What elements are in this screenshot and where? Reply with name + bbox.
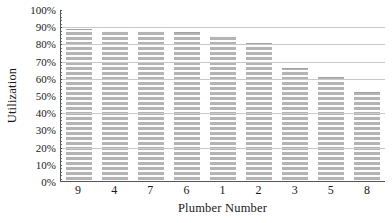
y-axis-minor-tick-mark xyxy=(60,51,62,52)
y-axis-minor-tick-mark xyxy=(60,120,62,121)
bar-slot xyxy=(133,10,169,181)
y-axis-minor-tick-mark xyxy=(60,137,62,138)
bar xyxy=(102,31,128,181)
y-axis-tick-label: 90% xyxy=(36,22,56,33)
y-axis-minor-tick-mark xyxy=(60,58,62,59)
x-axis-tick-labels: 947612358 xyxy=(60,184,385,202)
y-axis-tick-mark xyxy=(60,10,62,11)
plot-inner xyxy=(61,10,385,181)
y-axis-tick-mark xyxy=(60,79,62,80)
x-axis-tick-label: 1 xyxy=(204,184,240,196)
bar xyxy=(138,31,164,181)
y-axis-minor-tick-mark xyxy=(60,175,62,176)
y-axis-minor-tick-mark xyxy=(60,89,62,90)
bar xyxy=(66,29,92,181)
y-axis-tick-mark xyxy=(60,113,62,114)
y-axis-minor-tick-mark xyxy=(60,48,62,49)
y-axis-minor-tick-mark xyxy=(60,103,62,104)
bar-slot xyxy=(349,10,385,181)
y-axis-minor-tick-mark xyxy=(60,38,62,39)
x-axis-tick-label: 4 xyxy=(96,184,132,196)
bar xyxy=(354,92,380,181)
y-axis-tick-mark xyxy=(60,96,62,97)
bar-slot xyxy=(205,10,241,181)
y-axis-minor-tick-mark xyxy=(60,17,62,18)
bar xyxy=(210,36,236,181)
bar-slot xyxy=(97,10,133,181)
y-axis-minor-tick-mark xyxy=(60,86,62,87)
y-axis-minor-tick-mark xyxy=(60,99,62,100)
bar xyxy=(282,68,308,181)
y-axis-minor-tick-mark xyxy=(60,154,62,155)
bar-slot xyxy=(169,10,205,181)
plot-area xyxy=(60,10,385,182)
y-axis-tick-mark xyxy=(60,148,62,149)
y-axis-minor-tick-mark xyxy=(60,82,62,83)
x-axis-title-text: Plumber Number xyxy=(178,201,267,215)
y-axis-tick-label: 40% xyxy=(36,108,56,119)
y-axis-minor-tick-mark xyxy=(60,127,62,128)
bar xyxy=(318,77,344,181)
x-axis-tick-label: 9 xyxy=(60,184,96,196)
y-axis-minor-tick-mark xyxy=(60,110,62,111)
y-axis-tick-label: 80% xyxy=(36,39,56,50)
y-axis-tick-mark xyxy=(60,27,62,28)
y-axis-tick-label: 70% xyxy=(36,56,56,67)
y-axis-minor-tick-mark xyxy=(60,68,62,69)
y-axis-minor-tick-mark xyxy=(60,75,62,76)
y-axis-minor-tick-mark xyxy=(60,161,62,162)
y-axis-tick-label: 30% xyxy=(36,125,56,136)
bar xyxy=(174,32,200,181)
y-axis-minor-tick-mark xyxy=(60,13,62,14)
x-axis-title: Plumber Number xyxy=(60,201,385,216)
y-axis-minor-tick-mark xyxy=(60,106,62,107)
y-axis-minor-tick-mark xyxy=(60,20,62,21)
y-axis-tick-label: 0% xyxy=(41,177,56,188)
y-axis-minor-tick-mark xyxy=(60,55,62,56)
y-axis-tick-label: 20% xyxy=(36,142,56,153)
y-axis-minor-tick-mark xyxy=(60,93,62,94)
bars-layer xyxy=(61,10,385,181)
y-axis-minor-tick-mark xyxy=(60,168,62,169)
x-axis-tick-label: 2 xyxy=(241,184,277,196)
x-axis-tick-label: 8 xyxy=(349,184,385,196)
x-axis-tick-label: 6 xyxy=(168,184,204,196)
bar-slot xyxy=(61,10,97,181)
bar xyxy=(246,43,272,182)
y-axis-tick-mark xyxy=(60,165,62,166)
y-axis-minor-tick-mark xyxy=(60,124,62,125)
y-axis-tick-label: 60% xyxy=(36,73,56,84)
y-axis-tick-labels: 0%10%20%30%40%50%60%70%80%90%100% xyxy=(20,10,56,182)
x-axis-tick-label: 5 xyxy=(313,184,349,196)
bar-slot xyxy=(277,10,313,181)
y-axis-minor-tick-mark xyxy=(60,151,62,152)
y-axis-minor-tick-mark xyxy=(60,172,62,173)
y-axis-minor-tick-mark xyxy=(60,41,62,42)
y-axis-minor-tick-mark xyxy=(60,117,62,118)
y-axis-minor-tick-mark xyxy=(60,144,62,145)
x-axis-tick-label: 3 xyxy=(277,184,313,196)
bar-slot xyxy=(313,10,349,181)
y-axis-tick-mark xyxy=(60,62,62,63)
y-axis-title-text: Utilization xyxy=(6,67,21,123)
y-axis-minor-tick-mark xyxy=(60,141,62,142)
y-axis-tick-mark xyxy=(60,44,62,45)
y-axis-minor-tick-mark xyxy=(60,34,62,35)
y-axis-tick-label: 100% xyxy=(30,5,56,16)
y-axis-minor-tick-mark xyxy=(60,134,62,135)
bar-slot xyxy=(241,10,277,181)
y-axis-minor-tick-mark xyxy=(60,179,62,180)
y-axis-tick-label: 50% xyxy=(36,91,56,102)
y-axis-minor-tick-mark xyxy=(60,158,62,159)
x-axis-tick-label: 7 xyxy=(132,184,168,196)
y-axis-minor-tick-mark xyxy=(60,65,62,66)
y-axis-minor-tick-mark xyxy=(60,31,62,32)
y-axis-tick-label: 10% xyxy=(36,159,56,170)
bar-chart-figure: Utilization 0%10%20%30%40%50%60%70%80%90… xyxy=(0,0,392,223)
y-axis-minor-tick-mark xyxy=(60,24,62,25)
y-axis-tick-mark xyxy=(60,130,62,131)
y-axis-minor-tick-mark xyxy=(60,72,62,73)
